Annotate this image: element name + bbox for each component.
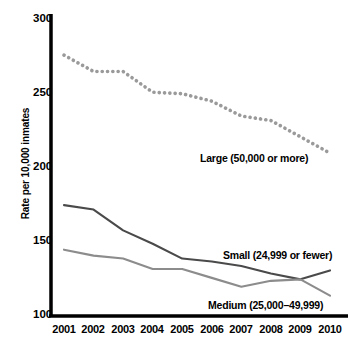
series-annotation-small: Small (24,999 or fewer) xyxy=(223,249,332,261)
plot-area xyxy=(0,0,351,343)
series-line-large xyxy=(64,55,330,153)
series-annotation-large: Large (50,000 or more) xyxy=(200,152,308,164)
series-annotation-medium: Medium (25,000–49,999) xyxy=(208,299,323,311)
series-line-small xyxy=(64,205,330,279)
line-chart: Rate per 10,000 inmates 300 250 200 150 … xyxy=(0,0,351,343)
